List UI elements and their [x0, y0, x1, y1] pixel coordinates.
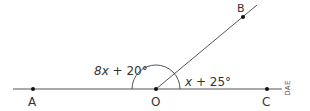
point-o	[154, 87, 158, 91]
label-a: A	[28, 96, 36, 108]
point-c	[265, 87, 269, 91]
point-b	[241, 15, 245, 19]
angle-diagram: A O C B 8x + 20° x + 25° DAE	[0, 0, 310, 111]
angle-label-aob: 8x + 20°	[94, 65, 148, 77]
figure-code-label: DAE	[284, 80, 292, 95]
angle-label-boc-rest: + 25°	[192, 75, 231, 89]
angle-label-boc: x + 25°	[185, 76, 231, 88]
point-a	[31, 87, 35, 91]
angle-label-aob-var: 8x	[94, 64, 109, 78]
label-o: O	[151, 96, 160, 108]
angle-label-aob-rest: + 20°	[109, 64, 148, 78]
label-b: B	[237, 3, 245, 14]
label-c: C	[262, 96, 270, 108]
